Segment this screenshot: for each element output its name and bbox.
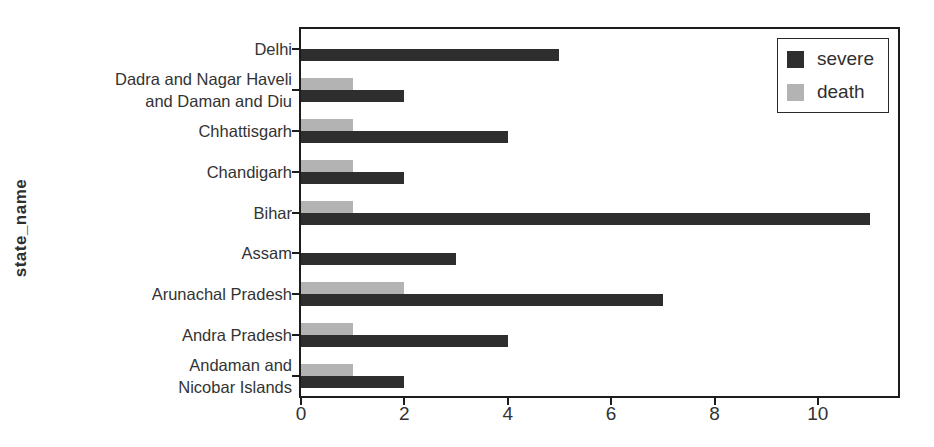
death-bar: [301, 282, 404, 294]
severe-bar: [301, 253, 456, 265]
legend: severe death: [777, 38, 889, 113]
category-label: Andaman andNicobar Islands: [178, 354, 292, 398]
x-tick-label: 8: [685, 403, 745, 425]
bar-chart-figure: state_name severe death DelhiDadra and N…: [0, 0, 934, 447]
death-bar: [301, 364, 353, 376]
severe-bar: [301, 294, 663, 306]
y-tick-mark: [292, 212, 299, 214]
category-label: Assam: [242, 242, 292, 264]
x-tick-label: 10: [788, 403, 848, 425]
death-swatch-icon: [787, 84, 804, 101]
category-label: Bihar: [253, 202, 292, 224]
severe-bar: [301, 213, 870, 225]
y-tick-mark: [292, 252, 299, 254]
x-tick-label: 0: [271, 403, 331, 425]
y-tick-mark: [292, 375, 299, 377]
y-tick-mark: [292, 130, 299, 132]
death-bar: [301, 160, 353, 172]
death-bar: [301, 119, 353, 131]
plot-area: severe death: [299, 27, 900, 398]
category-label: Delhi: [254, 38, 292, 60]
y-tick-mark: [292, 89, 299, 91]
y-tick-mark: [292, 171, 299, 173]
y-tick-mark: [292, 48, 299, 50]
legend-entry-severe: severe: [787, 48, 874, 70]
category-label: Chhattisgarh: [198, 120, 292, 142]
death-bar: [301, 78, 353, 90]
severe-bar: [301, 90, 404, 102]
death-bar: [301, 323, 353, 335]
legend-entry-death: death: [787, 81, 874, 103]
legend-label-severe: severe: [817, 48, 874, 70]
severe-swatch-icon: [787, 51, 804, 68]
x-tick-label: 4: [478, 403, 538, 425]
severe-bar: [301, 49, 559, 61]
category-label: Chandigarh: [207, 161, 292, 183]
severe-bar: [301, 335, 508, 347]
y-tick-mark: [292, 334, 299, 336]
x-tick-label: 6: [581, 403, 641, 425]
legend-label-death: death: [817, 81, 865, 103]
category-label: Arunachal Pradesh: [152, 283, 292, 305]
y-tick-mark: [292, 293, 299, 295]
x-tick-label: 2: [374, 403, 434, 425]
death-bar: [301, 201, 353, 213]
category-label: Andra Pradesh: [182, 324, 292, 346]
y-axis-label: state_name: [11, 179, 31, 278]
category-label: Dadra and Nagar Haveliand Daman and Diu: [115, 68, 292, 112]
severe-bar: [301, 376, 404, 388]
severe-bar: [301, 131, 508, 143]
severe-bar: [301, 172, 404, 184]
